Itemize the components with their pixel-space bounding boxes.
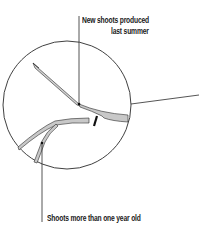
magnifier-circle bbox=[3, 41, 131, 169]
old-shoots-label: Shoots more than one year old bbox=[47, 214, 141, 224]
new-shoots-label-line2: last summer bbox=[111, 27, 149, 37]
old-shoots-leader-dot bbox=[41, 142, 44, 145]
new-shoots-label-line1: New shoots produced bbox=[82, 16, 149, 26]
magnifier-pointer-line bbox=[131, 95, 199, 104]
new-shoot bbox=[33, 63, 80, 106]
new-shoots-leader-dot bbox=[78, 103, 81, 106]
pruning-cut-mark bbox=[94, 116, 97, 126]
old-shoot-main bbox=[18, 118, 89, 150]
pruning-diagram bbox=[0, 0, 199, 228]
